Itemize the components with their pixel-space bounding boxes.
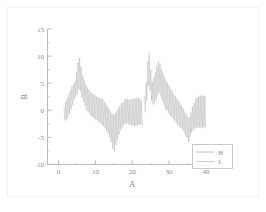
x-tick-label: 0 (57, 168, 61, 176)
y-tick-label: -10 (35, 161, 45, 169)
y-axis-title: B (20, 94, 29, 99)
figure-frame: -10-5051015010203040 AB BL (0, 0, 266, 212)
legend-label-l: L (219, 158, 223, 166)
legend-box[interactable] (193, 145, 233, 169)
x-axis-title: A (129, 180, 135, 189)
legend-label-b: B (219, 149, 224, 157)
x-tick-label: 20 (129, 168, 137, 176)
x-tick-label: 40 (202, 168, 210, 176)
y-tick-label: 10 (37, 53, 45, 61)
data-trace-l (64, 54, 206, 152)
chart-canvas[interactable]: -10-5051015010203040 AB BL (0, 0, 266, 212)
x-tick-label: 10 (92, 168, 100, 176)
y-tick-label: 0 (41, 107, 45, 115)
chart-legend[interactable]: BL (193, 145, 233, 169)
x-tick-label: 30 (166, 168, 174, 176)
y-tick-label: -5 (38, 134, 44, 142)
axis-labels-group: AB (20, 94, 136, 188)
data-traces-group (64, 53, 206, 152)
y-tick-label: 5 (41, 80, 45, 88)
y-tick-label: 15 (37, 26, 45, 34)
